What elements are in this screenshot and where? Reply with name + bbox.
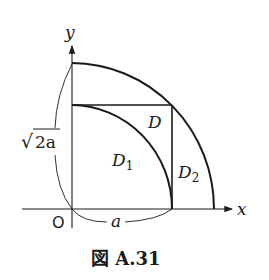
a-label: a <box>111 211 121 231</box>
sqrt2a-label: 2a <box>35 132 56 152</box>
figure-canvas: y x O √ 2a a D D1 D2 図 A.31 <box>0 0 269 280</box>
region-D-label: D <box>147 112 162 132</box>
a-dimension-arc-left <box>72 209 107 222</box>
y-axis-label: y <box>64 22 75 42</box>
region-D1-label: D1 <box>111 150 133 173</box>
a-dimension-arc-right <box>125 209 172 222</box>
origin-label: O <box>52 213 65 232</box>
sqrt2a-dimension-arc-lower <box>55 155 72 209</box>
region-D2-label: D2 <box>177 162 199 185</box>
sqrt2a-dimension-arc <box>55 64 72 128</box>
figure-caption: 図 A.31 <box>91 248 161 269</box>
sqrt-symbol: √ <box>21 130 34 152</box>
x-axis-label: x <box>237 199 247 219</box>
